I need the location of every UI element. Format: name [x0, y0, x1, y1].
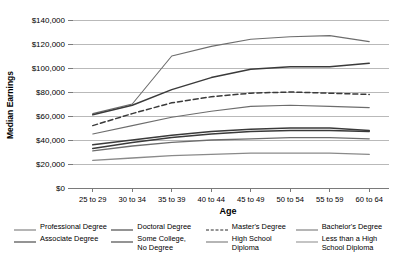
chart-plot-area: $0$20,000$40,000$60,000$80,000$100,000$1…	[0, 0, 401, 218]
y-tick-label: $100,000	[32, 64, 66, 73]
x-tick-label: 35 to 39	[158, 195, 185, 204]
x-tick-label: 55 to 59	[316, 195, 343, 204]
median-earnings-by-age-chart: $0$20,000$40,000$60,000$80,000$100,000$1…	[0, 0, 401, 270]
legend-item[interactable]: Less than a High School Diploma	[296, 234, 393, 252]
legend-line-swatch-icon	[14, 237, 36, 246]
y-tick-label: $0	[56, 184, 65, 193]
legend-item[interactable]: Bachelor's Degree	[296, 222, 393, 234]
y-tick-label: $140,000	[32, 16, 66, 25]
series-line	[93, 36, 370, 114]
legend-item[interactable]: Professional Degree	[14, 222, 111, 234]
x-axis-tick-labels: 25 to 2930 to 3435 to 3940 to 4445 to 49…	[79, 195, 383, 204]
legend-item-label: Some College, No Degree	[137, 234, 185, 252]
legend-line-swatch-icon	[296, 237, 318, 246]
y-axis-title: Median Earnings	[5, 71, 15, 139]
legend-line-swatch-icon	[206, 237, 228, 246]
x-axis-title: Age	[219, 206, 236, 216]
y-axis-tick-labels: $0$20,000$40,000$60,000$80,000$100,000$1…	[32, 16, 66, 193]
y-tick-label: $20,000	[36, 160, 65, 169]
legend-item-label: Professional Degree	[40, 222, 107, 231]
y-tick-label: $60,000	[36, 112, 65, 121]
legend-item-label: High School Diploma	[232, 234, 272, 252]
legend-item-label: Master's Degree	[232, 222, 286, 231]
chart-legend: Professional DegreeDoctoral DegreeMaster…	[0, 220, 401, 270]
legend-item-label: Doctoral Degree	[137, 222, 191, 231]
legend-line-swatch-icon	[296, 225, 318, 234]
legend-line-swatch-icon	[111, 237, 133, 246]
legend-item-label: Less than a High School Diploma	[322, 234, 377, 252]
legend-row-1: Professional DegreeDoctoral DegreeMaster…	[14, 222, 393, 234]
legend-item-label: Associate Degree	[40, 234, 98, 243]
x-tick-label: 40 to 44	[198, 195, 225, 204]
x-tick-label: 25 to 29	[79, 195, 106, 204]
x-tick-label: 30 to 34	[119, 195, 146, 204]
series-line	[93, 153, 370, 160]
x-tick-label: 45 to 49	[237, 195, 264, 204]
x-tick-label: 60 to 64	[356, 195, 383, 204]
legend-item[interactable]: Doctoral Degree	[111, 222, 206, 234]
y-tick-label: $80,000	[36, 88, 65, 97]
x-axis	[73, 188, 389, 192]
legend-row-2: Associate DegreeSome College, No DegreeH…	[14, 234, 393, 252]
y-tick-label: $120,000	[32, 40, 66, 49]
y-tick-label: $40,000	[36, 136, 65, 145]
legend-item-label: Bachelor's Degree	[322, 222, 383, 231]
legend-line-swatch-icon	[206, 225, 228, 234]
legend-item[interactable]: Some College, No Degree	[111, 234, 206, 252]
x-tick-label: 50 to 54	[277, 195, 304, 204]
legend-item[interactable]: Associate Degree	[14, 234, 111, 252]
legend-item[interactable]: High School Diploma	[206, 234, 296, 252]
legend-item[interactable]: Master's Degree	[206, 222, 296, 234]
data-series-lines	[93, 36, 370, 161]
series-line	[93, 63, 370, 115]
legend-line-swatch-icon	[14, 225, 36, 234]
y-axis-tick-marks	[68, 20, 73, 188]
gridlines	[73, 20, 389, 188]
legend-line-swatch-icon	[111, 225, 133, 234]
